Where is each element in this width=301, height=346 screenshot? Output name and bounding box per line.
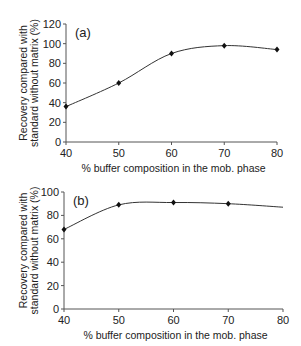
x-tick-label: 70: [222, 314, 234, 326]
chart-panel-b: 0204060801004050607080% buffer compositi…: [17, 186, 289, 341]
data-point-marker: [116, 202, 121, 208]
y-tick-label: 20: [47, 280, 59, 292]
figure: 0204060801001204050607080% buffer compos…: [0, 0, 301, 346]
y-tick-label: 20: [49, 116, 61, 128]
x-tick-label: 60: [165, 147, 177, 159]
y-tick-label: 100: [41, 186, 59, 198]
x-axis-label: % buffer composition in the mob. phase: [83, 329, 267, 341]
y-tick-label: 60: [47, 233, 59, 245]
data-line: [64, 202, 283, 229]
y-axis-label-line2: standard without matrix (%): [28, 19, 40, 147]
data-point-marker: [275, 47, 280, 53]
data-point-marker: [222, 43, 227, 49]
x-tick-label: 80: [271, 147, 283, 159]
chart-panel-a: 0204060801001204050607080% buffer compos…: [17, 18, 283, 174]
data-point-marker: [62, 226, 67, 232]
panel-label: (a): [75, 25, 91, 40]
y-axis-label-line2: standard without matrix (%): [28, 187, 40, 315]
y-tick-label: 40: [47, 256, 59, 268]
y-tick-label: 100: [43, 38, 61, 50]
x-tick-label: 50: [113, 314, 125, 326]
x-tick-label: 70: [218, 147, 230, 159]
x-tick-label: 80: [277, 314, 289, 326]
y-tick-label: 120: [43, 18, 61, 30]
x-axis-label: % buffer composition in the mob. phase: [81, 162, 265, 174]
x-tick-label: 50: [113, 147, 125, 159]
y-tick-label: 80: [49, 57, 61, 69]
data-point-marker: [171, 200, 176, 206]
data-point-marker: [64, 104, 69, 110]
y-tick-label: 40: [49, 97, 61, 109]
x-tick-label: 40: [58, 314, 70, 326]
panel-label: (b): [73, 193, 89, 208]
y-tick-label: 80: [47, 209, 59, 221]
data-point-marker: [169, 51, 174, 57]
y-tick-label: 60: [49, 77, 61, 89]
x-tick-label: 60: [167, 314, 179, 326]
x-tick-label: 40: [60, 147, 72, 159]
data-point-marker: [226, 201, 231, 207]
data-point-marker: [116, 80, 121, 86]
